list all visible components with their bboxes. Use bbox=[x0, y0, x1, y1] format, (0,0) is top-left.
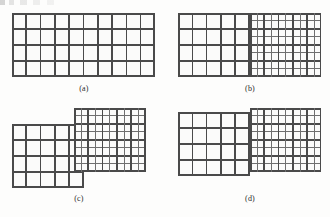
panel-c-refined-grid bbox=[74, 108, 146, 172]
panel-d-refined-grid bbox=[250, 108, 322, 172]
caption-a: (a) bbox=[64, 84, 104, 93]
panel-a-coarse-grid bbox=[12, 13, 155, 77]
panel-d-coarse-grid bbox=[178, 112, 250, 176]
panel-b-coarse-grid bbox=[178, 13, 250, 77]
figure-page: (a) (b) (c) (d) bbox=[0, 0, 330, 217]
caption-b: (b) bbox=[230, 84, 270, 93]
panel-b-refined-grid bbox=[250, 13, 322, 77]
caption-c: (c) bbox=[59, 194, 99, 203]
panel-c-coarse-grid bbox=[12, 124, 84, 188]
caption-d: (d) bbox=[230, 194, 270, 203]
scan-noise-artifact bbox=[0, 0, 62, 5]
